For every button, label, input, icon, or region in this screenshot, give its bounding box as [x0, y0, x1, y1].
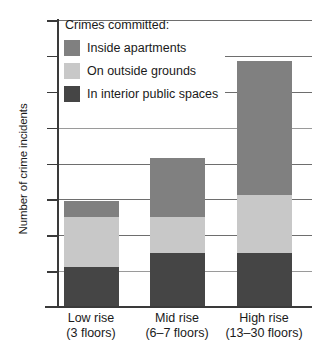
bar-segment-outside-grounds — [150, 217, 205, 253]
legend-label-interior-public-spaces: In interior public spaces — [87, 87, 218, 101]
y-tick-mark-30 — [47, 199, 58, 201]
legend: Crimes committed: Inside apartments On o… — [64, 18, 269, 106]
x-tick-label-mid-rise-line1: Mid rise — [155, 311, 199, 325]
bar-mid-rise — [150, 158, 205, 307]
bar-segment-interior-public-spaces — [64, 267, 119, 307]
y-tick-mark-70 — [47, 56, 58, 58]
legend-item-inside-apartments: Inside apartments — [64, 37, 269, 59]
x-tick-label-low-rise-line1: Low rise — [68, 311, 115, 325]
legend-item-interior-public-spaces: In interior public spaces — [64, 83, 269, 105]
y-tick-mark-80 — [47, 20, 58, 22]
bar-segment-outside-grounds — [237, 195, 292, 252]
y-tick-mark-60 — [47, 92, 58, 94]
bar-segment-inside-apartments — [64, 201, 119, 217]
x-tick-label-high-rise: High rise (13–30 floors) — [209, 311, 319, 341]
legend-swatch-outside-grounds — [64, 63, 80, 79]
x-tick-label-high-rise-line1: High rise — [239, 311, 288, 325]
legend-title: Crimes committed: — [65, 18, 269, 32]
y-axis-title: Number of crime incidents — [17, 54, 29, 284]
bar-segment-interior-public-spaces — [150, 253, 205, 307]
bar-segment-outside-grounds — [64, 217, 119, 267]
stacked-bar-chart: Number of crime incidents 80 70 60 50 40… — [0, 0, 320, 362]
y-tick-mark-10 — [47, 271, 58, 273]
legend-item-outside-grounds: On outside grounds — [64, 60, 269, 82]
y-tick-mark-50 — [47, 128, 58, 130]
legend-swatch-inside-apartments — [64, 40, 80, 56]
y-tick-mark-20 — [47, 235, 58, 237]
y-tick-mark-0 — [47, 307, 58, 309]
bar-segment-interior-public-spaces — [237, 253, 292, 307]
legend-label-outside-grounds: On outside grounds — [87, 64, 196, 78]
y-tick-mark-40 — [47, 164, 58, 166]
legend-swatch-interior-public-spaces — [64, 86, 80, 102]
legend-label-inside-apartments: Inside apartments — [87, 41, 186, 55]
bar-low-rise — [64, 201, 119, 307]
bar-segment-inside-apartments — [150, 158, 205, 217]
x-tick-label-high-rise-line2: (13–30 floors) — [209, 326, 319, 341]
